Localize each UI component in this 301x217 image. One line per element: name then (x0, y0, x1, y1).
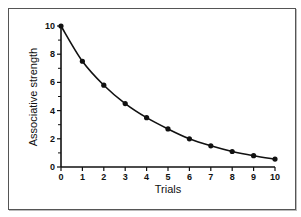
data-series (58, 23, 277, 161)
data-point (208, 143, 213, 148)
data-point (101, 83, 106, 88)
x-tick-label: 2 (101, 172, 106, 182)
data-point (144, 115, 149, 120)
x-tick-label: 4 (144, 172, 149, 182)
x-tick-label: 3 (123, 172, 128, 182)
data-point (251, 153, 256, 158)
data-point (165, 126, 170, 131)
axes: 0123456789100246810 (45, 21, 280, 182)
x-tick-label: 10 (270, 172, 280, 182)
x-tick-label: 7 (208, 172, 213, 182)
data-point (272, 157, 277, 162)
x-axis-label: Trials (155, 183, 182, 195)
data-point (187, 136, 192, 141)
y-tick-label: 2 (50, 134, 55, 144)
x-tick-label: 5 (165, 172, 170, 182)
line-chart: 0123456789100246810 Trials Associative s… (0, 0, 301, 217)
y-tick-label: 6 (50, 77, 55, 87)
y-axis-label: Associative strength (27, 48, 39, 146)
x-tick-label: 6 (187, 172, 192, 182)
x-tick-label: 0 (58, 172, 63, 182)
data-point (230, 149, 235, 154)
x-tick-label: 9 (251, 172, 256, 182)
y-tick-label: 4 (50, 106, 55, 116)
y-tick-label: 0 (50, 162, 55, 172)
series-line (61, 26, 275, 159)
data-point (80, 59, 85, 64)
x-tick-label: 8 (230, 172, 235, 182)
data-point (123, 101, 128, 106)
data-point (58, 23, 63, 28)
y-tick-label: 10 (45, 21, 55, 31)
y-tick-label: 8 (50, 49, 55, 59)
x-tick-label: 1 (80, 172, 85, 182)
